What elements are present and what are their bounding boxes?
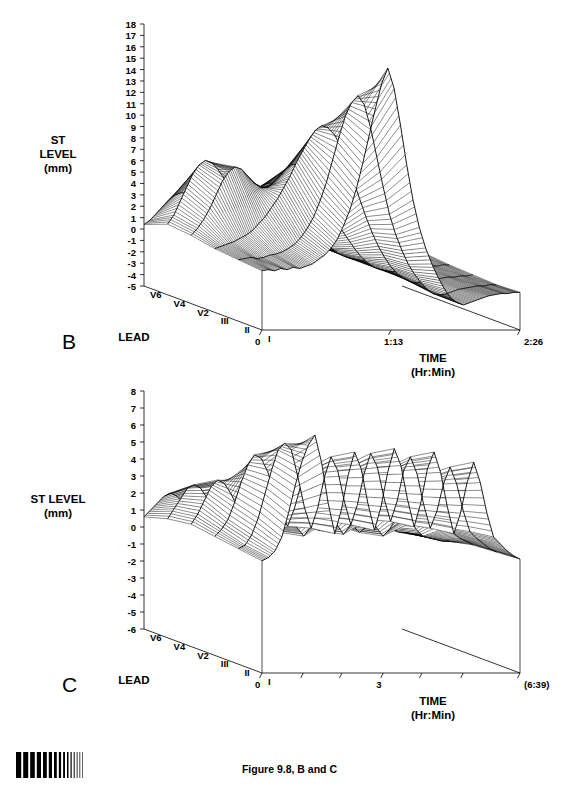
panel-b-z-tick-3: 3: [131, 190, 136, 201]
panel-c-z-axis-title: ST LEVEL (mm): [8, 492, 108, 520]
panel-c-time-title-line-2: (Hr:Min): [388, 708, 478, 722]
panel-c-surface-plot: [0, 390, 579, 750]
panel-b-lead-label-ii: II: [244, 324, 249, 335]
panel-b-z-tick-neg1: -1: [128, 235, 136, 246]
panel-c-time-axis-title: TIME (Hr:Min): [388, 694, 478, 722]
figure-root: B ST LEVEL (mm) LEAD TIME (Hr:Min) 18171…: [0, 0, 579, 800]
panel-c-z-tick-neg3: -3: [128, 573, 136, 584]
panel-b-z-tick-16: 16: [125, 42, 136, 53]
panel-c-z-tick-neg1: -1: [128, 539, 136, 550]
panel-b: B ST LEVEL (mm) LEAD TIME (Hr:Min) 18171…: [0, 0, 579, 390]
panel-b-z-tick-11: 11: [126, 99, 136, 110]
panel-b-lead-label-iii: III: [221, 315, 229, 326]
panel-b-z-tick-neg3: -3: [128, 258, 136, 269]
panel-b-z-tick-2: 2: [131, 201, 136, 212]
panel-c-lead-label-i: I: [268, 676, 271, 687]
panel-b-z-tick-12: 12: [125, 87, 136, 98]
panel-b-z-tick-neg4: -4: [128, 270, 136, 281]
panel-c-z-title-line-1: ST LEVEL: [8, 492, 108, 506]
figure-caption: Figure 9.8, B and C: [0, 763, 579, 775]
panel-b-time-title-line-2: (Hr:Min): [388, 365, 478, 379]
panel-c-z-tick-7: 7: [131, 403, 136, 414]
panel-b-z-tick-17: 17: [125, 30, 136, 41]
panel-b-z-tick-15: 15: [125, 53, 136, 64]
panel-c-z-tick-neg2: -2: [128, 556, 136, 567]
panel-b-lead-label-v6: V6: [150, 289, 162, 300]
panel-c-letter: C: [62, 673, 77, 697]
panel-c: C ST LEVEL (mm) LEAD TIME (Hr:Min) 87654…: [0, 390, 579, 750]
panel-b-time-label-1: 1:13: [384, 336, 403, 347]
panel-b-z-tick-neg2: -2: [128, 247, 136, 258]
panel-c-time-label-2: (6:39): [524, 679, 549, 690]
panel-b-lead-label-i: I: [268, 333, 271, 344]
panel-b-z-tick-13: 13: [125, 76, 136, 87]
panel-b-lead-axis-title: LEAD: [104, 330, 164, 344]
panel-c-z-tick-8: 8: [131, 386, 136, 397]
panel-c-z-tick-0: 0: [131, 522, 136, 533]
panel-c-lead-axis-title: LEAD: [104, 673, 164, 687]
panel-c-z-tick-1: 1: [131, 505, 136, 516]
panel-c-z-tick-neg6: -6: [128, 624, 136, 635]
panel-c-z-tick-neg4: -4: [128, 590, 136, 601]
panel-b-lead-label-v4: V4: [174, 298, 186, 309]
panel-b-z-tick-neg5: -5: [128, 281, 136, 292]
panel-c-z-title-line-2: (mm): [8, 506, 108, 520]
panel-c-lead-label-v2: V2: [197, 650, 209, 661]
panel-b-z-tick-9: 9: [131, 122, 136, 133]
panel-b-z-tick-10: 10: [125, 110, 136, 121]
panel-b-z-title-line-1: ST: [18, 133, 98, 147]
panel-c-z-tick-6: 6: [131, 420, 136, 431]
panel-c-z-tick-4: 4: [131, 454, 136, 465]
panel-b-time-label-2: 2:26: [524, 336, 543, 347]
panel-b-z-tick-7: 7: [131, 144, 136, 155]
panel-b-z-tick-1: 1: [131, 213, 136, 224]
panel-b-z-tick-4: 4: [131, 178, 136, 189]
panel-b-z-tick-5: 5: [131, 167, 136, 178]
panel-b-surface-plot: [0, 0, 579, 390]
panel-b-time-axis-title: TIME (Hr:Min): [388, 351, 478, 379]
panel-c-time-label-0: 0: [255, 679, 260, 690]
panel-c-lead-label-iii: III: [221, 658, 229, 669]
panel-b-time-label-0: 0: [255, 336, 260, 347]
panel-b-letter: B: [62, 330, 76, 354]
panel-b-z-axis-title: ST LEVEL (mm): [18, 133, 98, 175]
panel-b-z-title-line-2: LEVEL: [18, 147, 98, 161]
panel-c-time-title-line-1: TIME: [388, 694, 478, 708]
panel-c-z-tick-neg5: -5: [128, 607, 136, 618]
panel-c-time-label-1: 3: [376, 679, 381, 690]
panel-b-z-tick-14: 14: [125, 65, 136, 76]
panel-b-z-tick-8: 8: [131, 133, 136, 144]
panel-c-lead-label-ii: II: [244, 667, 249, 678]
panel-b-z-tick-6: 6: [131, 156, 136, 167]
panel-c-z-tick-3: 3: [131, 471, 136, 482]
panel-c-z-tick-2: 2: [131, 488, 136, 499]
panel-c-z-tick-5: 5: [131, 437, 136, 448]
panel-c-lead-label-v6: V6: [150, 632, 162, 643]
panel-b-z-tick-18: 18: [125, 19, 136, 30]
panel-b-z-tick-0: 0: [131, 224, 136, 235]
panel-b-lead-label-v2: V2: [197, 307, 209, 318]
panel-b-time-title-line-1: TIME: [388, 351, 478, 365]
panel-b-z-title-line-3: (mm): [18, 161, 98, 175]
panel-c-lead-label-v4: V4: [174, 641, 186, 652]
